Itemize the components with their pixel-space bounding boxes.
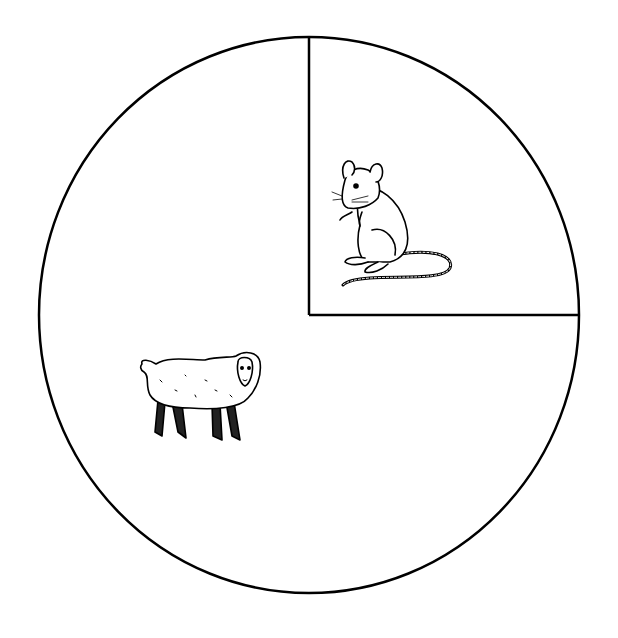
pie-chart — [0, 0, 618, 638]
